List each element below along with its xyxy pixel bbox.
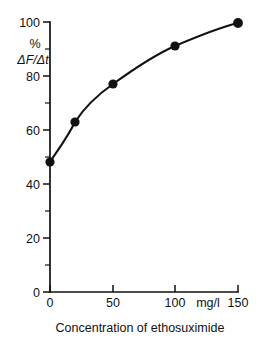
chart-figure: 100 80 60 40 20 0 % ΔF/Δt 0 50 100 150 m… <box>0 0 270 346</box>
x-tick-label-150: 150 <box>228 296 249 310</box>
y-tick-label-60: 60 <box>26 124 40 138</box>
y-tick-label-80: 80 <box>26 70 40 84</box>
x-tick-label-0: 0 <box>47 296 54 310</box>
x-axis-title: Concentration of ethosuximide <box>56 321 225 335</box>
chart-plot-area: 100 80 60 40 20 0 % ΔF/Δt 0 50 100 150 m… <box>0 0 270 346</box>
y-tick-label-0: 0 <box>33 286 40 300</box>
x-tick-label-100: 100 <box>165 296 186 310</box>
data-point <box>45 157 54 166</box>
data-point <box>170 41 179 50</box>
x-axis-major-ticks <box>50 285 238 292</box>
y-axis-title-rate: ΔF/Δt <box>16 53 49 67</box>
y-tick-label-100: 100 <box>19 16 40 30</box>
data-point <box>233 18 243 28</box>
x-axis-unit-label: mg/l <box>196 296 220 310</box>
x-tick-label-50: 50 <box>106 296 120 310</box>
y-tick-label-40: 40 <box>26 178 40 192</box>
data-point-markers <box>45 18 243 166</box>
y-tick-label-20: 20 <box>26 232 40 246</box>
data-point <box>70 117 79 126</box>
data-series-curve <box>50 23 238 162</box>
data-point <box>108 79 117 88</box>
y-axis-title-percent: % <box>29 37 40 51</box>
